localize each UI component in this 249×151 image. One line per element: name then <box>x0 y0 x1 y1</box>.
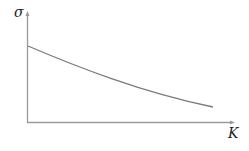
x-axis-label: K <box>228 126 238 140</box>
plot-canvas <box>0 0 249 151</box>
sigma-vs-k-diagram: σ K <box>0 0 249 151</box>
x-axis-arrowhead-icon <box>230 121 235 125</box>
y-axis-arrowhead-icon <box>26 11 30 16</box>
y-axis-label: σ <box>14 5 24 19</box>
sigma-curve <box>28 46 213 107</box>
